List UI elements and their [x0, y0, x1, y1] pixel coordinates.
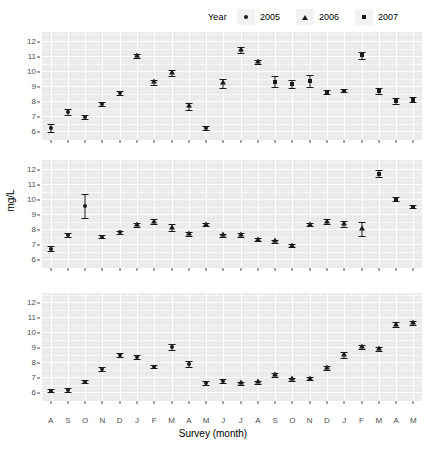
gridline-major-v: [362, 160, 363, 268]
error-bar-cap-lower: [306, 380, 313, 381]
marker-square-icon: [273, 80, 277, 84]
error-bar-cap-lower: [185, 236, 192, 237]
gridline-major-v: [68, 160, 69, 268]
gridline-minor-h: [42, 295, 422, 296]
x-tick-mark: [275, 268, 276, 271]
data-point: [150, 218, 158, 226]
error-bar-cap-lower: [341, 358, 348, 359]
error-bar-cap-lower: [82, 218, 89, 219]
gridline-major-h: [42, 169, 422, 170]
y-tick-label: 8: [32, 97, 36, 106]
error-bar-cap-lower: [168, 231, 175, 232]
error-bar-cap-lower: [220, 383, 227, 384]
data-point: [254, 58, 262, 66]
x-tick-label: M: [203, 416, 210, 425]
gridline-minor-h: [42, 94, 422, 95]
data-point: [288, 242, 296, 250]
y-tick-label: 8: [32, 358, 36, 367]
gridline-major-v: [137, 293, 138, 401]
marker-triangle-icon: [186, 231, 192, 236]
data-point: [219, 79, 227, 87]
x-tick-mark: [206, 268, 207, 271]
data-point: [375, 87, 383, 95]
marker-circle-icon: [66, 233, 70, 237]
gridline-major-v: [396, 32, 397, 140]
gridline-major-h: [42, 332, 422, 333]
error-bar-cap-lower: [47, 251, 54, 252]
data-point: [392, 321, 400, 329]
gridline-major-v: [137, 160, 138, 268]
x-tick-mark: [240, 401, 241, 404]
x-tick-mark: [327, 140, 328, 143]
data-point: [306, 375, 314, 383]
y-tick-label: 6: [32, 388, 36, 397]
x-tick-mark: [67, 268, 68, 271]
legend-item-2007[interactable]: 2007: [355, 9, 410, 25]
gridline-minor-h: [42, 310, 422, 311]
gridline-major-v: [310, 160, 311, 268]
data-point: [202, 379, 210, 387]
marker-circle-icon: [221, 379, 225, 383]
legend-item-2006[interactable]: 2006: [296, 9, 351, 25]
marker-square-icon: [377, 89, 381, 93]
marker-triangle-icon: [186, 103, 192, 108]
x-tick-mark: [292, 268, 293, 271]
x-tick-mark: [119, 140, 120, 143]
marker-triangle-icon: [151, 218, 157, 223]
gridline-major-h: [42, 131, 422, 132]
data-point: [323, 218, 331, 226]
data-point: [340, 87, 348, 95]
marker-triangle-icon: [393, 321, 399, 326]
gridline-minor-h: [42, 49, 422, 50]
gridline-major-v: [275, 293, 276, 401]
marker-triangle-icon: [341, 220, 347, 225]
x-tick-label: F: [152, 416, 157, 425]
x-tick-mark: [275, 401, 276, 404]
error-bar-cap-lower: [203, 226, 210, 227]
error-bar-cap-lower: [289, 247, 296, 248]
gridline-major-h: [42, 259, 422, 260]
gridline-major-v: [102, 293, 103, 401]
x-tick-mark: [223, 140, 224, 143]
data-point: [185, 102, 193, 110]
x-tick-mark: [119, 401, 120, 404]
x-tick-mark: [327, 268, 328, 271]
error-bar-cap-lower: [99, 371, 106, 372]
error-bar-cap-lower: [324, 224, 331, 225]
x-tick-mark: [396, 268, 397, 271]
plot-area: [42, 160, 422, 268]
x-tick-label: N: [307, 416, 313, 425]
x-tick-label: O: [82, 416, 88, 425]
error-bar-cap-lower: [47, 132, 54, 133]
x-axis: ASONDJFMAMJJASONDJFMAM: [42, 410, 422, 430]
x-tick-mark: [171, 140, 172, 143]
data-point: [271, 78, 279, 86]
marker-circle-icon: [83, 204, 87, 208]
x-tick-mark: [413, 140, 414, 143]
y-tick-label: 7: [32, 112, 36, 121]
marker-circle-icon: [100, 367, 104, 371]
error-bar-cap-lower: [272, 243, 279, 244]
data-point: [409, 319, 417, 327]
x-tick-mark: [257, 268, 258, 271]
y-tick-label: 8: [32, 225, 36, 234]
marker-triangle-icon: [359, 344, 365, 349]
marker-triangle-icon: [272, 238, 278, 243]
error-bar-cap-lower: [254, 241, 261, 242]
legend-item-2005[interactable]: 2005: [237, 9, 292, 25]
marker-square-icon: [308, 79, 312, 83]
gridline-minor-h: [42, 252, 422, 253]
marker-triangle-icon: [324, 218, 330, 223]
gridline-major-v: [327, 32, 328, 140]
gridline-major-h: [42, 71, 422, 72]
x-tick-mark: [137, 401, 138, 404]
x-tick-label: A: [255, 416, 260, 425]
y-axis-ticks: 6789101112: [18, 160, 40, 268]
x-tick-mark: [206, 140, 207, 143]
marker-triangle-icon: [134, 222, 140, 227]
data-point: [409, 203, 417, 211]
circle-icon: [237, 9, 255, 25]
x-tick-label: J: [135, 416, 139, 425]
x-tick-mark: [188, 140, 189, 143]
legend-title: Year: [208, 12, 227, 22]
